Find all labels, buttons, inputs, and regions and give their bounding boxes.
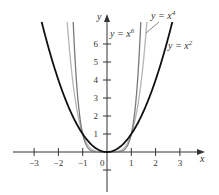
label-x2: y = x2 [167,39,193,51]
x-axis-label: x [199,153,205,164]
y-tick-label: 1 [94,129,99,139]
x-tick-label: −3 [29,158,39,168]
label-x6: y = x6 [109,27,135,39]
x-tick-label: 0 [100,158,105,168]
y-tick-label: 2 [94,111,99,121]
x-tick-label: 3 [178,158,183,168]
label-x4: y = x4 [150,9,176,21]
x-tick-label: −2 [54,158,64,168]
label-x4-leader [146,22,159,33]
y-tick-label: 6 [94,39,99,49]
y-tick-label: 5 [94,57,99,67]
y-axis-arrow-icon [104,14,110,22]
power-functions-chart: −3−2−10123 x 123456 y y = x6 y = x4 y = … [0,0,219,195]
y-tick-label: 3 [94,93,99,103]
y-axis-label: y [96,11,102,22]
x-tick-label: −1 [78,158,88,168]
x-tick-label: 2 [153,158,158,168]
x-tick-label: 1 [129,158,134,168]
y-tick-label: 4 [94,75,99,85]
